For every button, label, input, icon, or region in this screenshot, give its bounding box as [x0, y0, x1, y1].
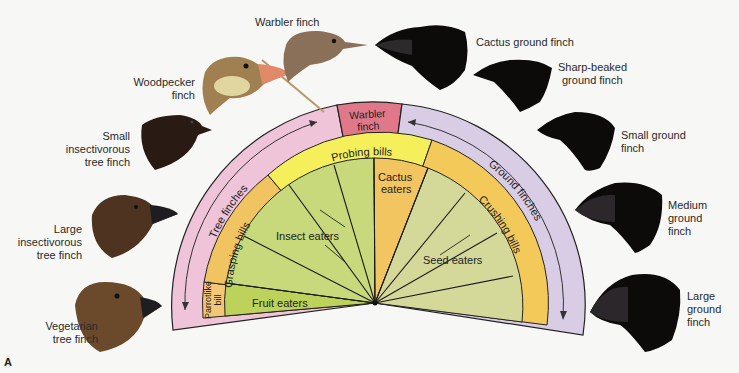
woodpecker-finch-label: Woodpeckerfinch: [120, 76, 195, 102]
adaptive-radiation-diagram: Tree finches Ground finches Probing bill…: [0, 0, 739, 373]
fruit-eaters-label: Fruit eaters: [252, 297, 308, 309]
cactus-ground-finch-label: Cactus ground finch: [476, 36, 574, 49]
large-insectivorous-tree-finch-head: [92, 195, 178, 258]
warbler-finch-label: Warbler finch: [255, 16, 319, 29]
warbler-segment-label-2: finch: [357, 119, 380, 133]
medium-ground-finch-head: [575, 183, 662, 254]
small-ground-finch-head: [537, 112, 615, 171]
small-ground-finch-label: Small groundfinch: [621, 129, 686, 155]
cactus-ground-finch-head: [375, 25, 468, 90]
parrotlike-label: Parrotlike: [203, 281, 213, 319]
large-ground-finch-label: Largegroundfinch: [687, 290, 721, 329]
woodpecker-finch-head: [202, 57, 290, 115]
small-insectivorous-tree-finch-label: Smallinsectivoroustree finch: [50, 130, 130, 169]
large-ground-finch-head: [590, 274, 680, 352]
figure-label: A: [4, 356, 12, 368]
cactus-eaters-label-2: eaters: [381, 183, 412, 195]
sharp-beaked-ground-finch-head: [473, 60, 552, 112]
vegetarian-tree-finch-label: Vegetariantree finch: [8, 320, 98, 346]
small-insectivorous-tree-finch-head: [141, 115, 212, 170]
seed-eaters-label: Seed eaters: [423, 254, 483, 266]
parrotlike-label-2: bill: [213, 294, 223, 305]
medium-ground-finch-label: Mediumgroundfinch: [668, 199, 707, 238]
insect-eaters-label: Insect eaters: [276, 230, 339, 242]
large-insectivorous-tree-finch-label: Largeinsectivoroustree finch: [8, 223, 82, 262]
warbler-finch-head: [283, 31, 368, 82]
cactus-eaters-label: Cactus: [378, 171, 413, 183]
sharp-beaked-ground-finch-label: Sharp-beakedground finch: [558, 61, 627, 87]
